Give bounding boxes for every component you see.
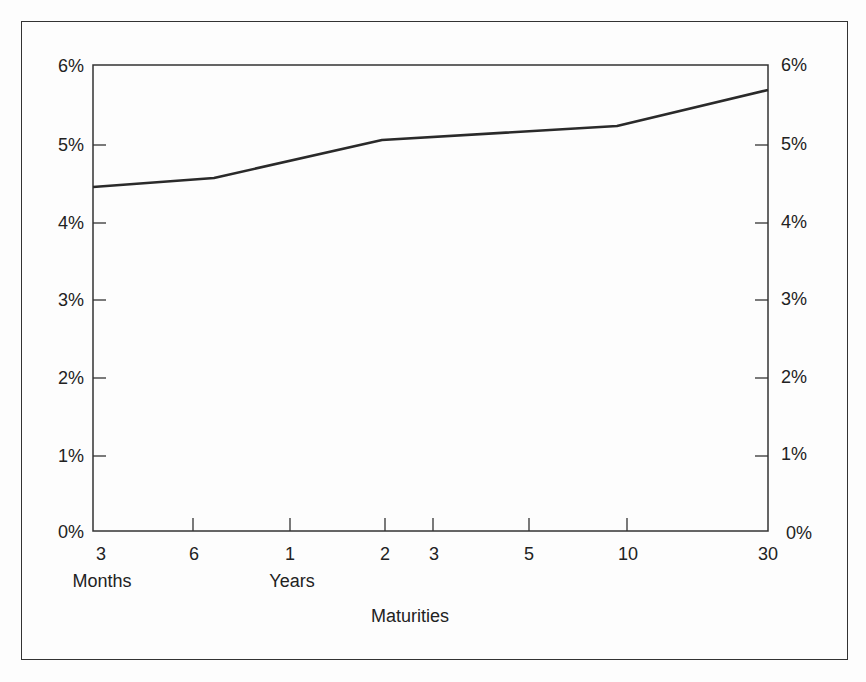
x-label-3-months: 3 [96,545,106,563]
x-label-30-years: 30 [758,545,778,563]
x-label-6-months: 6 [189,545,199,563]
y-label-left-1: 1% [24,447,84,465]
y-label-left-5: 5% [24,136,84,154]
left-y-ticks [93,145,106,456]
x-unit-years: Years [269,572,314,590]
y-label-right-5: 5% [781,135,807,153]
x-label-10-years: 10 [618,545,638,563]
x-axis-title: Maturities [371,607,449,625]
y-label-left-4: 4% [24,214,84,232]
x-label-5-years: 5 [524,545,534,563]
x-unit-months: Months [72,572,131,590]
y-label-right-3: 3% [781,290,807,308]
yield-curve-line [93,90,768,187]
plot-area [93,65,768,531]
y-label-right-2: 2% [781,368,807,386]
y-label-right-6: 6% [781,56,807,74]
y-label-left-2: 2% [24,369,84,387]
y-label-left-3: 3% [24,291,84,309]
x-label-3-years: 3 [429,545,439,563]
y-label-left-0: 0% [24,523,84,541]
y-label-right-4: 4% [781,213,807,231]
y-label-left-6: 6% [24,57,84,75]
y-label-right-0: 0% [786,524,812,542]
right-y-ticks [755,145,768,456]
x-label-2-years: 2 [380,545,390,563]
y-label-right-1: 1% [781,445,807,463]
x-label-1-year: 1 [285,545,295,563]
x-ticks [193,518,627,531]
